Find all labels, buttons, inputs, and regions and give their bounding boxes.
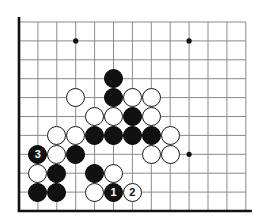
stone-black <box>123 126 142 145</box>
stone-white <box>47 145 66 164</box>
stone-black <box>66 145 85 164</box>
go-board-diagram: 312 <box>0 0 254 222</box>
stone-white <box>161 145 180 164</box>
stone-white <box>66 88 85 107</box>
stone-black <box>47 164 66 183</box>
stone-white <box>47 126 66 145</box>
stone-black <box>104 88 123 107</box>
stone-white <box>142 107 161 126</box>
stone-white <box>66 126 85 145</box>
move-number-label: 3 <box>29 146 46 163</box>
stone-white <box>142 88 161 107</box>
stone-white-move-2: 2 <box>123 183 142 202</box>
move-number-label: 1 <box>105 184 122 201</box>
stone-black <box>47 183 66 202</box>
stone-white <box>104 164 123 183</box>
stone-white <box>123 88 142 107</box>
stone-black <box>142 126 161 145</box>
stone-white <box>28 164 47 183</box>
stone-white <box>161 126 180 145</box>
stone-black <box>85 126 104 145</box>
stone-black <box>28 183 47 202</box>
stone-black-move-3: 3 <box>28 145 47 164</box>
stone-white <box>142 145 161 164</box>
stone-black <box>85 164 104 183</box>
stone-white <box>85 183 104 202</box>
move-number-label: 2 <box>124 184 141 201</box>
stone-black <box>123 107 142 126</box>
stone-layer: 312 <box>0 0 254 222</box>
stone-black <box>104 126 123 145</box>
stone-white <box>104 107 123 126</box>
stone-white <box>85 107 104 126</box>
stone-black <box>104 69 123 88</box>
stone-black-move-1: 1 <box>104 183 123 202</box>
